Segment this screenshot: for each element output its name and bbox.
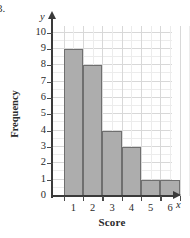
x-tick-label-2: 2 <box>85 202 101 213</box>
bar-5 <box>141 180 160 196</box>
y-tick-label-4: 4 <box>16 124 46 135</box>
y-axis-line <box>51 18 53 198</box>
y-tick-label-0: 0 <box>16 189 46 200</box>
y-tick-2 <box>47 163 53 164</box>
y-tick-label-3: 3 <box>16 140 46 151</box>
y-tick-8 <box>47 65 53 66</box>
y-tick-label-10: 10 <box>16 26 46 37</box>
y-tick-4 <box>47 131 53 132</box>
y-tick-label-9: 9 <box>16 42 46 53</box>
y-axis-arrow-icon <box>48 11 56 19</box>
y-tick-label-8: 8 <box>16 58 46 69</box>
bar-2 <box>83 65 102 196</box>
x-tick-label-5: 5 <box>143 202 159 213</box>
bar-4 <box>122 147 141 196</box>
bar-3 <box>102 131 121 196</box>
x-axis-title: Score <box>52 216 172 228</box>
x-tick-edge-4 <box>141 196 142 201</box>
x-tick-edge-3 <box>122 196 123 201</box>
x-axis-line <box>52 195 174 197</box>
x-tick-edge-1 <box>83 196 84 201</box>
bar-1 <box>64 49 83 196</box>
x-tick-label-4: 4 <box>123 202 139 213</box>
x-tick-edge-0 <box>64 196 65 201</box>
y-tick-label-6: 6 <box>16 91 46 102</box>
y-tick-3 <box>47 147 53 148</box>
x-tick-edge-5 <box>160 196 161 201</box>
y-tick-5 <box>47 114 53 115</box>
plot-area <box>52 26 172 196</box>
y-tick-label-2: 2 <box>16 156 46 167</box>
y-tick-label-7: 7 <box>16 75 46 86</box>
gridline-vertical-minor <box>189 26 190 196</box>
y-tick-9 <box>47 49 53 50</box>
x-tick-label-3: 3 <box>104 202 120 213</box>
y-tick-7 <box>47 82 53 83</box>
bars-layer <box>52 26 172 196</box>
y-tick-1 <box>47 180 53 181</box>
y-axis-variable-label: y <box>40 11 45 22</box>
y-tick-10 <box>47 33 53 34</box>
x-tick-edge-2 <box>102 196 103 201</box>
y-tick-6 <box>47 98 53 99</box>
x-tick-label-6: 6 <box>162 202 178 213</box>
problem-number-label: 3. <box>0 2 5 14</box>
x-tick-edge-6 <box>180 196 181 201</box>
x-tick-label-1: 1 <box>65 202 81 213</box>
y-tick-label-5: 5 <box>16 107 46 118</box>
gridline-vertical <box>180 26 181 196</box>
y-tick-label-1: 1 <box>16 173 46 184</box>
